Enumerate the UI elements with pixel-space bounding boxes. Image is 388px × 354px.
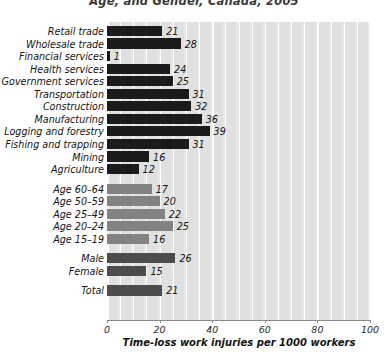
bar bbox=[107, 38, 181, 48]
category-label: Manufacturing bbox=[0, 113, 104, 124]
bar-value-label: 31 bbox=[193, 88, 205, 99]
bar-value-label: 36 bbox=[206, 113, 218, 124]
bar-value-label: 16 bbox=[153, 151, 165, 162]
category-label: Age 60–64 bbox=[0, 183, 104, 194]
bar bbox=[107, 51, 110, 61]
gridline bbox=[252, 22, 253, 320]
category-label: Transportation bbox=[0, 88, 104, 99]
grid-band bbox=[239, 22, 250, 320]
x-tick bbox=[107, 320, 108, 323]
x-tick-label: 0 bbox=[104, 324, 110, 335]
x-tick-label: 40 bbox=[206, 324, 218, 335]
x-tick-label: 20 bbox=[154, 324, 166, 335]
bar bbox=[107, 253, 175, 263]
category-label: Logging and forestry bbox=[0, 126, 104, 137]
gridline bbox=[212, 22, 214, 320]
x-tick bbox=[160, 320, 161, 323]
bar-value-label: 21 bbox=[166, 26, 178, 37]
bar bbox=[107, 221, 173, 231]
bar bbox=[107, 26, 162, 36]
gridline bbox=[225, 22, 226, 320]
bar-value-label: 28 bbox=[185, 38, 197, 49]
category-label: Financial services bbox=[0, 51, 104, 62]
x-axis-title: Time-loss work injuries per 1000 workers bbox=[107, 337, 371, 348]
x-tick-label: 80 bbox=[311, 324, 323, 335]
gridline bbox=[369, 22, 371, 320]
bar bbox=[107, 64, 170, 74]
bar bbox=[107, 266, 146, 276]
grid-band bbox=[199, 22, 210, 320]
gridline bbox=[317, 22, 319, 320]
bar-value-label: 32 bbox=[195, 101, 207, 112]
grid-band bbox=[186, 22, 197, 320]
bar-value-label: 20 bbox=[164, 196, 176, 207]
bar bbox=[107, 209, 165, 219]
gridline bbox=[344, 22, 345, 320]
bar bbox=[107, 89, 189, 99]
grid-band bbox=[331, 22, 342, 320]
bar bbox=[107, 114, 202, 124]
bar-value-label: 22 bbox=[169, 208, 181, 219]
grid-band bbox=[212, 22, 223, 320]
x-tick bbox=[265, 320, 266, 323]
bar-value-label: 25 bbox=[177, 221, 189, 232]
bar-value-label: 24 bbox=[174, 63, 186, 74]
bar-value-label: 1 bbox=[114, 51, 120, 62]
category-label: Mining bbox=[0, 151, 104, 162]
gridline bbox=[278, 22, 279, 320]
category-label: Age 15–19 bbox=[0, 233, 104, 244]
bar-value-label: 31 bbox=[193, 138, 205, 149]
grid-band bbox=[357, 22, 368, 320]
bar bbox=[107, 196, 160, 206]
bar-value-label: 25 bbox=[177, 76, 189, 87]
gridline bbox=[199, 22, 200, 320]
bar bbox=[107, 139, 189, 149]
gridline bbox=[331, 22, 332, 320]
bar bbox=[107, 76, 173, 86]
x-tick bbox=[317, 320, 318, 323]
category-label: Government services bbox=[0, 76, 104, 87]
category-label: Age 50–59 bbox=[0, 196, 104, 207]
category-label: Age 20–24 bbox=[0, 221, 104, 232]
x-tick bbox=[212, 320, 213, 323]
bar-value-label: 26 bbox=[179, 253, 191, 264]
category-label: Health services bbox=[0, 63, 104, 74]
bar-value-label: 15 bbox=[150, 265, 162, 276]
bar-value-label: 39 bbox=[214, 126, 226, 137]
category-label: Retail trade bbox=[0, 26, 104, 37]
x-axis-line bbox=[107, 320, 371, 321]
gridline bbox=[357, 22, 358, 320]
grid-band bbox=[344, 22, 355, 320]
grid-band bbox=[265, 22, 276, 320]
category-label: Female bbox=[0, 265, 104, 276]
category-label: Age 25–49 bbox=[0, 208, 104, 219]
x-tick-label: 100 bbox=[361, 324, 379, 335]
x-tick bbox=[370, 320, 371, 323]
category-label: Wholesale trade bbox=[0, 38, 104, 49]
category-label: Agriculture bbox=[0, 164, 104, 175]
category-label: Male bbox=[0, 253, 104, 264]
bar bbox=[107, 164, 139, 174]
grid-band bbox=[225, 22, 236, 320]
x-tick-label: 60 bbox=[259, 324, 271, 335]
category-label: Fishing and trapping bbox=[0, 138, 104, 149]
bar bbox=[107, 126, 210, 136]
bar-value-label: 12 bbox=[143, 164, 155, 175]
bar bbox=[107, 285, 162, 295]
gridline bbox=[304, 22, 305, 320]
grid-band bbox=[317, 22, 328, 320]
bar bbox=[107, 151, 149, 161]
gridline bbox=[239, 22, 240, 320]
bar-value-label: 16 bbox=[153, 233, 165, 244]
bar bbox=[107, 184, 152, 194]
grid-band bbox=[304, 22, 315, 320]
grid-band bbox=[278, 22, 289, 320]
category-label: Construction bbox=[0, 101, 104, 112]
bar-value-label: 17 bbox=[156, 183, 168, 194]
category-axis-labels: Retail tradeWholesale tradeFinancial ser… bbox=[0, 0, 104, 354]
chart-container: Age, and Gender, Canada, 2005 Retail tra… bbox=[0, 0, 388, 354]
gridline bbox=[291, 22, 292, 320]
grid-band bbox=[252, 22, 263, 320]
bar bbox=[107, 234, 149, 244]
gridline bbox=[265, 22, 267, 320]
